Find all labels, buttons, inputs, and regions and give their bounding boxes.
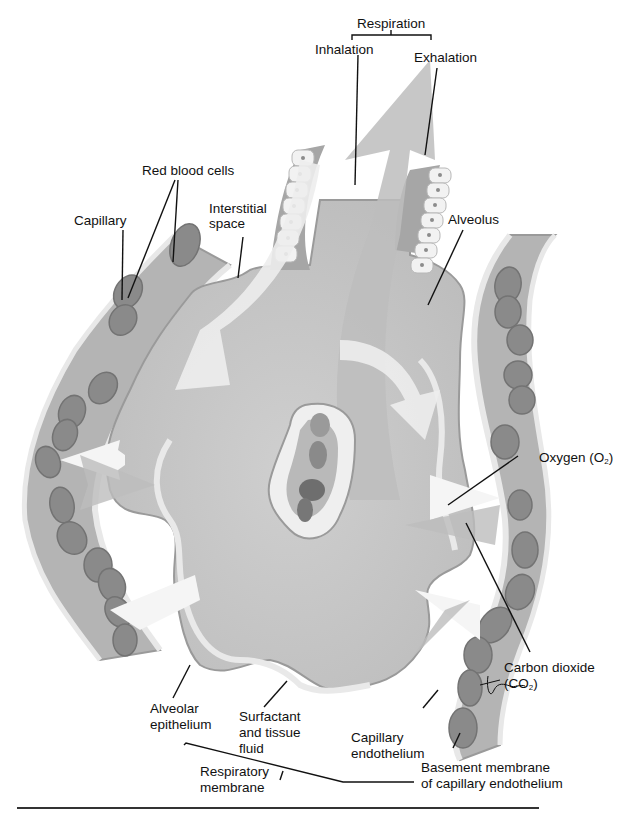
label-capillary-endothelium-line1: Capillary: [351, 730, 404, 746]
label-oxygen: Oxygen (O2): [539, 450, 613, 470]
oxygen-text: Oxygen (O: [539, 450, 604, 465]
alveolus-diagram: [0, 0, 633, 817]
oxygen-close: ): [609, 450, 614, 465]
label-respiration: Respiration: [357, 16, 425, 32]
label-interstitial-space-line1: Interstitial: [209, 201, 267, 217]
label-basement-membrane-line1: Basement membrane: [421, 760, 550, 776]
label-alveolar-epithelium-line1: Alveolar: [150, 701, 199, 717]
label-inhalation: Inhalation: [315, 42, 374, 58]
label-carbon-dioxide-line1: Carbon dioxide: [504, 660, 595, 676]
label-basement-membrane-line2: of capillary endothelium: [421, 776, 563, 792]
label-surfactant-line2: and tissue: [239, 725, 301, 741]
label-respiratory-membrane-line2: membrane: [200, 780, 265, 796]
co2-close: ): [533, 676, 538, 691]
label-interstitial-space-line2: space: [209, 216, 245, 232]
label-surfactant-line3: fluid: [239, 741, 264, 757]
label-carbon-dioxide-line2: (CO2): [504, 676, 538, 696]
label-alveolus: Alveolus: [448, 212, 499, 228]
label-capillary: Capillary: [74, 213, 127, 229]
label-respiratory-membrane-line1: Respiratory: [200, 764, 269, 780]
co2-text: (CO: [504, 676, 529, 691]
label-red-blood-cells: Red blood cells: [142, 163, 234, 179]
label-surfactant-line1: Surfactant: [239, 709, 301, 725]
label-alveolar-epithelium-line2: epithelium: [150, 717, 212, 733]
bottom-rule: [17, 807, 539, 809]
label-exhalation: Exhalation: [414, 50, 477, 66]
label-capillary-endothelium-line2: endothelium: [351, 746, 425, 762]
